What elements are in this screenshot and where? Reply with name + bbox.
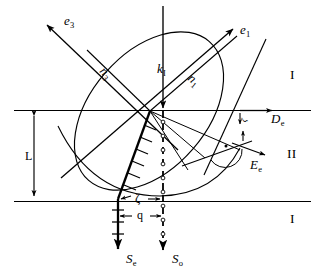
right-angle-marker [211, 145, 242, 168]
label-Ee: Ee [250, 158, 262, 171]
dimension-zeta [121, 196, 160, 199]
axis-e3 [47, 25, 178, 150]
label-q: q [137, 209, 143, 221]
label-thickness-L: L [25, 150, 32, 162]
diagram-canvas [0, 0, 323, 277]
label-kI: kI [157, 62, 166, 75]
label-De: De [271, 112, 284, 125]
wave-normal-arc [58, 126, 240, 196]
optics-diagram-figure: e3 e1 n3 kI n1 De Ee ζ I II I L ζ q Se [0, 0, 323, 277]
ray-Se [112, 111, 156, 249]
label-zeta: ζ [135, 192, 140, 205]
label-e3: e3 [64, 14, 74, 27]
label-Se: Se [126, 252, 136, 265]
region-label-bottom: I [290, 212, 295, 226]
region-label-middle: II [287, 147, 297, 161]
label-e1: e1 [240, 23, 250, 36]
region-label-top: I [290, 68, 295, 82]
axis-e1 [61, 29, 233, 178]
label-So: So [172, 252, 183, 265]
